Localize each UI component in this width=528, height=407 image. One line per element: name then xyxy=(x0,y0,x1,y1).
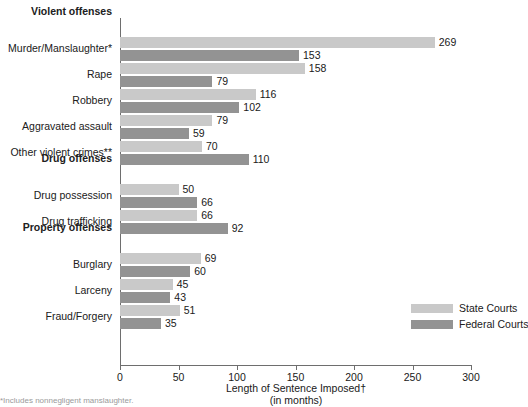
bar-value-other-violent-crimes-federal: 110 xyxy=(253,154,270,165)
x-tick-200 xyxy=(354,365,355,370)
bar-other-violent-crimes-federal xyxy=(120,154,249,165)
bar-larceny-federal xyxy=(120,292,170,303)
bar-value-rape-state: 158 xyxy=(309,63,327,74)
bar-fraud-forgery-federal xyxy=(120,318,161,329)
bar-larceny-state xyxy=(120,279,173,290)
bar-value-drug-trafficking-federal: 92 xyxy=(232,223,244,234)
category-label-rape: Rape xyxy=(5,69,117,80)
bar-robbery-state xyxy=(120,89,256,100)
bar-value-murder-manslaughter-federal: 153 xyxy=(303,50,321,61)
category-labels-column: Violent offensesMurder/Manslaughter*Rape… xyxy=(0,0,117,370)
bar-murder-manslaughter-federal xyxy=(120,50,299,61)
legend-label-state: State Courts xyxy=(459,301,517,316)
bar-aggravated-assault-state xyxy=(120,115,212,126)
bar-value-robbery-state: 116 xyxy=(260,89,277,100)
category-label-aggravated-assault: Aggravated assault xyxy=(5,121,117,132)
category-label-drug-possession: Drug possession xyxy=(5,190,117,201)
bar-value-aggravated-assault-state: 79 xyxy=(216,115,228,126)
bar-rape-state xyxy=(120,63,305,74)
bar-fraud-forgery-state xyxy=(120,305,180,316)
legend-swatch-state xyxy=(411,304,453,313)
bar-burglary-federal xyxy=(120,266,190,277)
legend-item-federal[interactable]: Federal Courts xyxy=(411,317,522,333)
category-label-robbery: Robbery xyxy=(5,95,117,106)
x-tick-100 xyxy=(237,365,238,370)
legend-item-state[interactable]: State Courts xyxy=(411,301,522,317)
bar-value-fraud-forgery-federal: 35 xyxy=(165,318,177,329)
x-axis-title-line1: Length of Sentence Imposed† xyxy=(226,382,366,394)
bar-value-aggravated-assault-federal: 59 xyxy=(193,128,205,139)
x-tick-250 xyxy=(413,365,414,370)
x-axis-title-line2: (in months) xyxy=(120,394,472,406)
bar-value-drug-possession-state: 50 xyxy=(183,184,195,195)
bar-value-larceny-state: 45 xyxy=(177,279,189,290)
x-axis-title: Length of Sentence Imposed† (in months) xyxy=(120,382,472,406)
bar-robbery-federal xyxy=(120,102,239,113)
x-tick-50 xyxy=(179,365,180,370)
category-label-fraud-forgery: Fraud/Forgery xyxy=(5,311,117,322)
bar-murder-manslaughter-state xyxy=(120,37,435,48)
x-tick-300 xyxy=(471,365,472,370)
footnote: *Includes nonnegligent manslaughter. xyxy=(0,396,133,405)
group-label-violent-offenses: Violent offenses xyxy=(5,6,117,17)
group-label-drug-offenses: Drug offenses xyxy=(5,153,117,164)
bar-drug-trafficking-state xyxy=(120,210,197,221)
group-label-property-offenses: Property offenses xyxy=(5,222,117,233)
x-tick-0 xyxy=(120,365,121,370)
bar-value-drug-trafficking-state: 66 xyxy=(201,210,213,221)
bar-value-other-violent-crimes-state: 70 xyxy=(206,141,218,152)
bar-value-burglary-federal: 60 xyxy=(194,266,206,277)
bar-value-larceny-federal: 43 xyxy=(174,292,186,303)
legend-label-federal: Federal Courts xyxy=(459,317,528,332)
bar-rape-federal xyxy=(120,76,212,87)
bar-drug-possession-federal xyxy=(120,197,197,208)
bar-value-drug-possession-federal: 66 xyxy=(201,197,213,208)
category-label-burglary: Burglary xyxy=(5,259,117,270)
bar-value-burglary-state: 69 xyxy=(205,253,217,264)
legend-swatch-federal xyxy=(411,320,453,329)
bar-value-robbery-federal: 102 xyxy=(243,102,261,113)
bar-drug-possession-state xyxy=(120,184,179,195)
bar-value-murder-manslaughter-state: 269 xyxy=(439,37,457,48)
category-label-larceny: Larceny xyxy=(5,285,117,296)
legend: State CourtsFederal Courts xyxy=(411,301,522,333)
x-tick-150 xyxy=(296,365,297,370)
bar-value-rape-federal: 79 xyxy=(216,76,228,87)
category-label-murder-manslaughter: Murder/Manslaughter* xyxy=(5,43,117,54)
bar-burglary-state xyxy=(120,253,201,264)
bar-value-fraud-forgery-state: 51 xyxy=(184,305,196,316)
bar-aggravated-assault-federal xyxy=(120,128,189,139)
bar-other-violent-crimes-state xyxy=(120,141,202,152)
bar-drug-trafficking-federal xyxy=(120,223,228,234)
